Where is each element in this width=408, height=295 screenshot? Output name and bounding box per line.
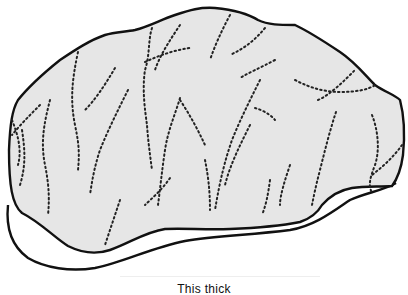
- figure-caption: This thick: [0, 282, 408, 295]
- slab-top-face: [9, 8, 404, 253]
- slab-illustration: [0, 0, 408, 295]
- caption-divider: [120, 276, 320, 277]
